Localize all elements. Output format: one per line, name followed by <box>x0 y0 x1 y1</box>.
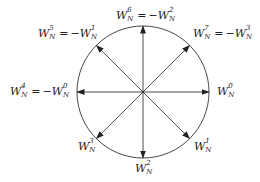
label-w2: W2N <box>135 162 154 176</box>
arrow-k7 <box>143 45 190 92</box>
label-w4: W4N=−W0N <box>10 85 71 99</box>
arrow-k3 <box>96 92 143 139</box>
label-w1: W1N <box>194 140 213 154</box>
arrow-k5 <box>96 45 143 92</box>
label-w7: W7N=−W3N <box>193 27 254 41</box>
label-w3: W3N <box>78 140 97 154</box>
label-w5: W5N=−W1N <box>38 27 99 41</box>
label-w0: W0N <box>217 85 236 99</box>
arrow-k1 <box>143 92 190 139</box>
label-w6: W6N=−W2N <box>116 9 177 23</box>
